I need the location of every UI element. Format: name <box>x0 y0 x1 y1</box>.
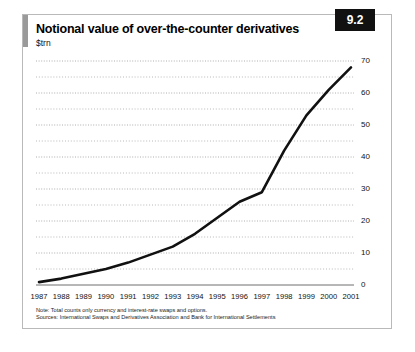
x-axis-tick-label: 2001 <box>338 292 364 301</box>
chart-source: Sources: International Swaps and Derivat… <box>36 314 275 321</box>
y-axis-tick-label: 60 <box>361 88 381 97</box>
chart-figure: Notional value of over-the-counter deriv… <box>22 14 392 329</box>
title-accent-bar <box>23 15 28 47</box>
y-axis-tick-label: 0 <box>361 280 381 289</box>
y-axis-tick-label: 10 <box>361 248 381 257</box>
line-chart-svg <box>36 55 354 289</box>
y-axis-tick-label: 70 <box>361 56 381 65</box>
y-axis-tick-label: 20 <box>361 216 381 225</box>
page-title: Notional value of over-the-counter deriv… <box>36 22 299 36</box>
gridlines <box>36 61 354 269</box>
chart-footnotes: Note: Total counts only currency and int… <box>36 307 275 322</box>
y-axis-tick-label: 30 <box>361 184 381 193</box>
y-axis-tick-label: 50 <box>361 120 381 129</box>
figure-number-badge: 9.2 <box>335 9 375 31</box>
chart-plot-area <box>36 55 354 289</box>
data-series-line <box>39 67 351 282</box>
chart-subtitle: $trn <box>36 38 51 48</box>
chart-note: Note: Total counts only currency and int… <box>36 307 275 314</box>
y-axis-tick-label: 40 <box>361 152 381 161</box>
